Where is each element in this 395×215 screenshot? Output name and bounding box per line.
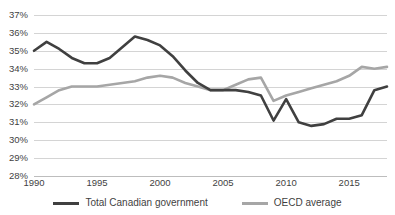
y-axis-tick-label: 37% bbox=[9, 10, 28, 20]
legend-label: Total Canadian government bbox=[85, 198, 207, 208]
y-axis-tick-label: 29% bbox=[9, 153, 28, 163]
legend-item[interactable]: Total Canadian government bbox=[53, 198, 207, 208]
y-axis: 37%36%35%34%33%32%31%30%29%28% bbox=[0, 15, 32, 176]
x-axis: 199019952000200520102015 bbox=[34, 178, 387, 194]
x-axis-tick-label: 1990 bbox=[23, 178, 44, 188]
plot-area bbox=[34, 15, 387, 176]
x-axis-tick-label: 2000 bbox=[149, 178, 170, 188]
y-axis-tick-label: 34% bbox=[9, 64, 28, 74]
y-axis-tick-label: 33% bbox=[9, 82, 28, 92]
x-axis-tick-label: 1995 bbox=[86, 178, 107, 188]
legend-item[interactable]: OECD average bbox=[242, 198, 342, 208]
series-layer bbox=[34, 15, 387, 176]
x-axis-tick-label: 2010 bbox=[276, 178, 297, 188]
y-axis-tick-label: 36% bbox=[9, 28, 28, 38]
x-axis-tick-label: 2015 bbox=[339, 178, 360, 188]
x-axis-tick-label: 2005 bbox=[213, 178, 234, 188]
series-line bbox=[34, 67, 387, 105]
y-axis-tick-label: 32% bbox=[9, 100, 28, 110]
legend-color-swatch bbox=[53, 202, 79, 205]
line-chart: 37%36%35%34%33%32%31%30%29%28% 199019952… bbox=[0, 0, 395, 215]
legend-label: OECD average bbox=[274, 198, 342, 208]
y-axis-tick-label: 30% bbox=[9, 135, 28, 145]
y-axis-tick-label: 31% bbox=[9, 118, 28, 128]
chart-legend: Total Canadian governmentOECD average bbox=[0, 194, 395, 212]
legend-color-swatch bbox=[242, 202, 268, 205]
y-axis-tick-label: 35% bbox=[9, 46, 28, 56]
